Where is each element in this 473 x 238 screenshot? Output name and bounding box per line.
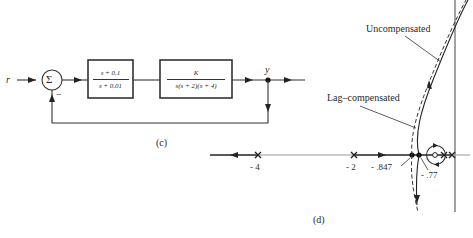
input-label: r — [6, 75, 10, 85]
fraction-bar — [93, 79, 129, 80]
figure-canvas — [0, 0, 473, 238]
arrow-icon — [414, 195, 420, 203]
plant-numerator: K — [194, 69, 199, 77]
label-breakaway-847: - .847 — [371, 163, 392, 172]
arrow-icon — [49, 94, 55, 102]
arrow-icon — [378, 152, 386, 158]
label-uncompensated: Uncompensated — [366, 24, 430, 34]
compensator-denominator: s + 0.01 — [99, 82, 122, 90]
label-breakaway-77: - .77 — [421, 171, 438, 180]
arrow-icon — [433, 143, 438, 148]
leader-line-77 — [421, 158, 428, 170]
arrow-icon — [434, 162, 439, 167]
tick-label-neg4: - 4 — [250, 163, 260, 172]
compensator-numerator: s + 0.1 — [101, 69, 121, 77]
arrow-icon — [284, 77, 292, 83]
label-lag-compensated: Lag–compensated — [327, 93, 400, 103]
leader-line-uncompensated — [405, 36, 441, 62]
summing-symbol: Σ — [46, 74, 52, 85]
arrow-icon — [265, 104, 271, 112]
root-locus-plot — [210, 0, 470, 212]
zero-marker-icon — [433, 153, 438, 158]
feedback-sign: − — [56, 90, 62, 100]
arrow-icon — [74, 77, 82, 83]
tick-label-neg2: - 2 — [346, 163, 356, 172]
output-label: y — [265, 65, 269, 75]
fraction-bar — [167, 79, 225, 80]
arrow-icon — [245, 77, 253, 83]
plant-denominator: s(s + 2)(s + 4) — [176, 82, 217, 90]
caption-d: (d) — [313, 215, 325, 225]
arrow-icon — [28, 77, 36, 83]
plant-transfer-function: K s(s + 2)(s + 4) — [160, 60, 232, 98]
leader-line-847 — [401, 158, 410, 166]
caption-c: (c) — [156, 138, 167, 148]
arrow-icon — [230, 152, 238, 158]
compensator-transfer-function: s + 0.1 s + 0.01 — [88, 60, 133, 98]
leader-line-lag-compensated — [360, 106, 416, 128]
